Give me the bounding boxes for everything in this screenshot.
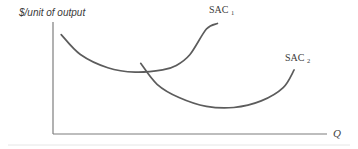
cost-curves-diagram: $/unit of output Q SAC 1 SAC 2 [0,0,358,149]
sac2-label-subscript: 2 [307,57,310,64]
sac2-label-main: SAC [285,52,305,63]
sac1-curve [61,24,217,73]
y-axis-title: $/unit of output [18,7,86,18]
sac2-label: SAC 2 [285,52,310,64]
sac1-label-main: SAC [209,4,229,15]
sac1-label-subscript: 1 [231,9,234,16]
x-axis-label: Q [333,127,341,139]
sac1-label: SAC 1 [209,4,234,16]
